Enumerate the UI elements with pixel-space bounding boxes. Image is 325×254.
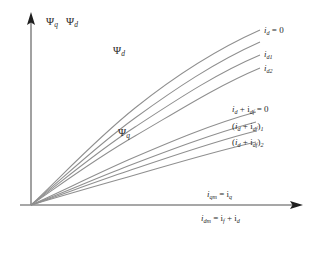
plot-canvas <box>0 0 325 254</box>
y-axis-label: Ψq Ψd <box>46 16 78 28</box>
psi-d-curve-group <box>31 30 260 205</box>
psi-q-family-label: Ψq <box>118 127 130 139</box>
y-axis-label-psi-d: Ψd <box>66 15 78 27</box>
y-axis <box>27 12 35 205</box>
curve-label-id-idf-2: (id + idf)2 <box>232 138 263 148</box>
curve-label-id1: id1 <box>264 50 273 60</box>
psi-d-family-label: Ψd <box>113 45 125 57</box>
curve-label-id-idf-zero: id + idf = 0 <box>232 105 269 115</box>
x-axis-label-d: idm = if + id <box>201 214 240 224</box>
x-axis <box>20 201 303 209</box>
psi-d-curve-4 <box>31 68 260 205</box>
curve-label-id2: id2 <box>264 64 273 74</box>
saturation-curve-figure: Ψq Ψd Ψd Ψq id = 0 id1 id2 id + idf = 0 … <box>0 0 325 254</box>
x-axis-label-q: iqm = iq <box>207 190 232 200</box>
y-axis-label-psi-q: Ψq <box>46 15 58 27</box>
curve-label-id-zero: id = 0 <box>264 26 284 36</box>
curve-label-id-idf-1: (id + idf)1 <box>232 122 263 132</box>
